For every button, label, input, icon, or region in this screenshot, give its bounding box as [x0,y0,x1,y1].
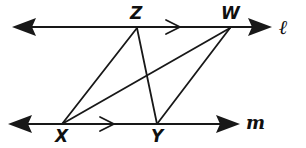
vertex-label-z: Z [130,5,142,22]
vertex-label-y: Y [151,128,163,145]
segment-YW [157,28,230,124]
line-label-l: ℓ [279,17,288,37]
segment-XZ [62,28,137,124]
line-m [8,115,240,133]
vertex-label-x: X [55,128,68,145]
line-label-m: m [246,114,265,132]
vertex-label-w: W [221,5,240,22]
segment-ZY [137,28,157,124]
interior-segments [62,28,230,124]
segment-XW [62,28,230,124]
geometry-diagram: Z W X Y ℓ m [0,0,306,148]
